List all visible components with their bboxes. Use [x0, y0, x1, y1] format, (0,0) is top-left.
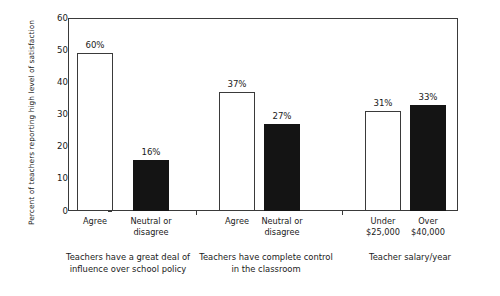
- bar-value-label: 60%: [77, 41, 113, 50]
- bar: [410, 105, 446, 211]
- y-tick-label: 30: [46, 110, 68, 119]
- group-caption: Teachers have a great deal of influence …: [48, 252, 208, 275]
- x-axis-category-label: Over$40,000: [398, 216, 458, 237]
- bar: [365, 111, 401, 211]
- y-tick-label: 40: [46, 78, 68, 87]
- x-axis-group-separator: [342, 211, 343, 215]
- y-tick-label: 20: [46, 142, 68, 151]
- bar-value-label: 27%: [264, 112, 300, 121]
- y-tick-label: 60: [46, 14, 68, 23]
- group-caption: Teachers have complete control in the cl…: [196, 252, 336, 275]
- x-axis-category-label: Agree: [65, 216, 125, 227]
- x-axis-category-label: Neutral ordisagree: [252, 216, 312, 237]
- bar-value-label: 37%: [219, 80, 255, 89]
- bar-value-label: 31%: [365, 99, 401, 108]
- y-axis-title: Percent of teachers reporting high level…: [23, 15, 41, 230]
- y-tick-mark: [108, 211, 112, 212]
- bar-chart: Percent of teachers reporting high level…: [0, 0, 500, 296]
- bar: [133, 160, 169, 211]
- y-tick-label: 50: [46, 46, 68, 55]
- bar: [77, 53, 113, 211]
- group-caption: Teacher salary/year: [340, 252, 480, 264]
- y-tick-label: 0: [46, 207, 68, 216]
- bar: [219, 92, 255, 211]
- bar-value-label: 16%: [133, 148, 169, 157]
- x-axis-category-label: Neutral ordisagree: [121, 216, 181, 237]
- bar: [264, 124, 300, 211]
- bar-value-label: 33%: [410, 93, 446, 102]
- y-tick-label: 10: [46, 174, 68, 183]
- y-axis-ticks: 0102030405060: [40, 18, 68, 211]
- x-axis-group-separator: [196, 211, 197, 215]
